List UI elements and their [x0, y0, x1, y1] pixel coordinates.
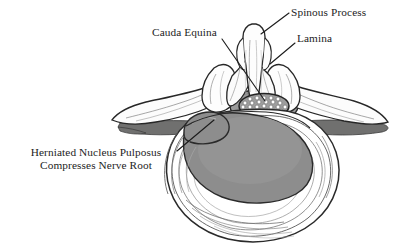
label-hnp-line-2: Compresses Nerve Root — [8, 159, 184, 172]
label-herniated-nucleus-pulposus: Herniated Nucleus Pulposus Compresses Ne… — [8, 146, 184, 172]
leader-spinous-process — [261, 13, 289, 34]
label-cauda-equina: Cauda Equina — [152, 26, 217, 39]
leader-lamina — [270, 43, 295, 64]
intervertebral-disc-group — [165, 108, 339, 242]
label-hnp-line-1: Herniated Nucleus Pulposus — [31, 146, 162, 158]
label-lamina: Lamina — [297, 32, 332, 45]
anatomy-figure: Spinous Process Cauda Equina Lamina Hern… — [0, 0, 400, 250]
label-spinous-process: Spinous Process — [291, 6, 366, 19]
